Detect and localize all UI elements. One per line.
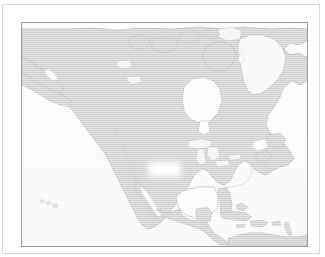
- page-frame: [2, 4, 320, 254]
- map-viewport[interactable]: [22, 23, 307, 246]
- lake-ontario: [228, 154, 241, 160]
- north-america-map[interactable]: [21, 22, 308, 247]
- map-graphic: [22, 23, 307, 246]
- puerto-rico: [272, 221, 281, 226]
